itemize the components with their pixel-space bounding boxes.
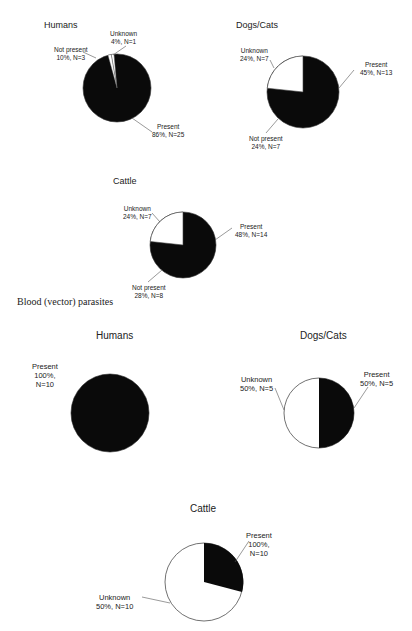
- label-name: Present: [360, 61, 392, 69]
- label-present-top-cattle: Present 48%, N=14: [235, 223, 267, 239]
- label-value: 86%, N=25: [152, 131, 184, 139]
- label-name: Unknown: [240, 375, 273, 384]
- label-present-blood-cattle: Present 100%, N=10: [246, 531, 272, 558]
- label-n: N=10: [246, 549, 272, 558]
- label-present-blood-humans: Present 100%, N=10: [32, 362, 58, 389]
- label-name: Unknown: [96, 593, 133, 602]
- pie-blood-cattle: [142, 541, 249, 621]
- label-percent: 100%,: [32, 371, 58, 380]
- chart-title-top-cattle: Cattle: [113, 176, 137, 186]
- label-name: Present: [246, 531, 272, 540]
- label-name: Not present: [249, 135, 283, 143]
- label-percent: 100%,: [246, 540, 272, 549]
- charts-canvas: [0, 0, 412, 631]
- label-present-top-dogs: Present 45%, N=13: [360, 61, 392, 77]
- label-name: Present: [152, 123, 184, 131]
- label-notpresent-top-dogs: Not present 24%, N=7: [249, 135, 283, 151]
- label-name: Present: [32, 362, 58, 371]
- label-present-blood-dogs: Present 50%, N=5: [360, 370, 393, 388]
- section-heading: Blood (vector) parasites: [17, 296, 113, 307]
- label-value: 10%, N=3: [54, 54, 88, 62]
- label-name: Present: [360, 370, 393, 379]
- pie-top-cattle: [148, 212, 232, 282]
- label-value: 50%, N=5: [360, 379, 393, 388]
- label-value: 24%, N=7: [240, 55, 269, 63]
- pie-top-humans: [83, 46, 152, 132]
- label-unknown-top-humans: Unknown 4%, N=1: [110, 30, 137, 46]
- label-notpresent-top-cattle: Not present 28%, N=8: [132, 284, 166, 300]
- pie-blood-humans: [71, 374, 149, 452]
- label-unknown-top-cattle: Unknown 24%, N=7: [123, 205, 152, 221]
- label-value: 50%, N=5: [240, 384, 273, 393]
- label-unknown-top-dogs: Unknown 24%, N=7: [240, 47, 269, 63]
- chart-title-blood-dogs: Dogs/Cats: [300, 330, 347, 341]
- label-name: Not present: [132, 284, 166, 292]
- chart-title-blood-cattle: Cattle: [190, 503, 216, 514]
- chart-title-top-humans: Humans: [44, 20, 78, 30]
- chart-title-blood-humans: Humans: [96, 330, 133, 341]
- slice-unknown: [267, 56, 303, 92]
- label-value: 4%, N=1: [110, 38, 137, 46]
- label-n: N=10: [32, 380, 58, 389]
- label-value: 24%, N=7: [123, 213, 152, 221]
- label-unknown-blood-cattle: Unknown 50%, N=10: [96, 593, 133, 611]
- label-value: 45%, N=13: [360, 69, 392, 77]
- label-name: Present: [235, 223, 267, 231]
- label-present-top-humans: Present 86%, N=25: [152, 123, 184, 139]
- label-unknown-blood-dogs: Unknown 50%, N=5: [240, 375, 273, 393]
- label-name: Unknown: [110, 30, 137, 38]
- pie-blood-dogs: [275, 378, 368, 448]
- label-value: 48%, N=14: [235, 231, 267, 239]
- pie-top-dogs: [266, 56, 354, 133]
- label-name: Not present: [54, 46, 88, 54]
- label-value: 50%, N=10: [96, 602, 133, 611]
- label-value: 28%, N=8: [132, 292, 166, 300]
- label-notpresent-top-humans: Not present 10%, N=3: [54, 46, 88, 62]
- label-value: 24%, N=7: [249, 143, 283, 151]
- label-name: Unknown: [240, 47, 269, 55]
- chart-title-top-dogs: Dogs/Cats: [236, 20, 278, 30]
- label-name: Unknown: [123, 205, 152, 213]
